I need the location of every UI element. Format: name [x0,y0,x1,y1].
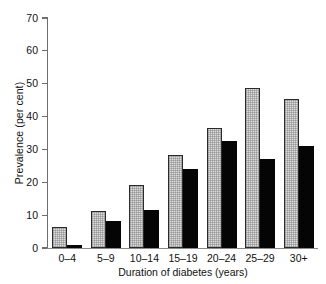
y-tick-mark [42,83,47,84]
y-tick-label: 40 [12,111,38,121]
y-tick-label: 30 [12,144,38,154]
bar [144,210,159,248]
x-tick-label: 15–19 [164,252,203,264]
y-tick-mark [42,247,47,248]
y-tick-mark [42,50,47,51]
x-tick-label: 10–14 [125,252,164,264]
bar-group [52,18,82,248]
bar-chart: Prevalence (per cent) 010203040506070 0–… [0,0,326,284]
bar [183,169,198,249]
y-tick-label: 50 [12,78,38,88]
bar [52,227,67,248]
x-tick-label: 30+ [279,252,318,264]
bar-group [91,18,121,248]
bar [67,245,82,248]
bar [207,128,222,248]
bar [168,155,183,248]
bar [91,211,106,248]
y-tick-mark [42,149,47,150]
y-tick-label: 0 [12,243,38,253]
x-tick-label: 25–29 [241,252,280,264]
bar-group [168,18,198,248]
y-tick-mark [42,182,47,183]
bar [299,146,314,248]
y-tick-label: 60 [12,45,38,55]
y-tick-label: 70 [12,13,38,23]
bar-group [129,18,159,248]
bar-group [284,18,314,248]
y-tick-label: 20 [12,177,38,187]
plot-area [48,18,318,248]
y-tick-mark [42,116,47,117]
bar-group [207,18,237,248]
x-axis-title: Duration of diabetes (years) [48,266,318,278]
bar [260,159,275,248]
bar [222,141,237,248]
y-tick-mark [42,215,47,216]
y-tick-label: 10 [12,210,38,220]
x-tick-label: 0–4 [48,252,87,264]
bar [106,221,121,248]
bar [284,99,299,248]
bar-group [245,18,275,248]
bar [129,185,144,248]
x-tick-label: 20–24 [202,252,241,264]
y-tick-mark [42,17,47,18]
x-tick-label: 5–9 [87,252,126,264]
bar [245,88,260,248]
